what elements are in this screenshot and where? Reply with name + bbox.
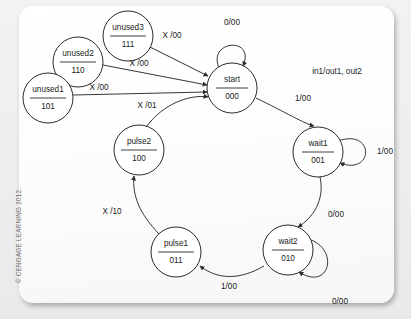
state-node-wait2[interactable]: wait2 010: [263, 225, 313, 275]
edge-label-start-self: 0/00: [224, 18, 240, 27]
state-label-name: unused2: [62, 49, 94, 58]
state-node-pulse1[interactable]: pulse1 011: [151, 227, 201, 277]
copyright-notice: © CENGAGE LEARNING 2012.: [15, 176, 22, 296]
state-diagram: unused3 111 unused2 110 unused1 101 star…: [0, 0, 411, 319]
state-label-name: start: [224, 75, 241, 84]
edge-label-wait2-pulse1: 1/00: [221, 282, 237, 291]
edge-wait2-pulse1: [200, 266, 264, 277]
state-node-wait1[interactable]: wait1 001: [293, 127, 343, 177]
edge-label-unused1-start: X /00: [89, 83, 109, 92]
state-label-name: unused3: [112, 23, 144, 32]
edge-label-pulse2-start: X /01: [137, 101, 157, 110]
state-node-unused1[interactable]: unused1 101: [23, 73, 73, 123]
edge-unused3-start: [150, 47, 208, 76]
state-label-code: 100: [132, 154, 146, 163]
state-label-name: unused1: [32, 85, 64, 94]
state-label-code: 110: [71, 66, 84, 75]
state-label-name: wait1: [307, 139, 328, 148]
state-label-name: pulse2: [127, 137, 152, 146]
state-node-unused3[interactable]: unused3 111: [103, 11, 153, 61]
edge-label-unused2-start: X /00: [129, 59, 149, 68]
state-label-code: 111: [122, 40, 135, 49]
edge-label-wait1-wait2: 0/00: [328, 210, 344, 219]
state-label-code: 001: [311, 156, 325, 165]
edge-label-pulse1-pulse2: X /10: [102, 207, 122, 216]
state-label-name: pulse1: [164, 239, 189, 248]
state-node-pulse2[interactable]: pulse2 100: [114, 125, 164, 175]
state-label-code: 000: [225, 92, 239, 101]
state-label-code: 101: [41, 102, 55, 111]
notation-legend: in1/out1, out2: [312, 67, 362, 76]
edge-unused1-start: [73, 92, 207, 95]
figure-root: unused3 111 unused2 110 unused1 101 star…: [0, 0, 411, 319]
state-label-name: wait2: [277, 237, 298, 246]
edge-label-wait1-self: 1/00: [377, 147, 393, 156]
edge-label-start-wait1: 1/00: [295, 94, 311, 103]
edge-label-unused3-start: X /00: [162, 31, 182, 40]
edge-label-wait2-self: 0/00: [332, 297, 348, 306]
edge-wait1-wait2: [298, 177, 321, 227]
state-label-code: 010: [281, 254, 295, 263]
state-label-code: 011: [169, 256, 182, 265]
state-node-start[interactable]: start 000: [207, 63, 257, 113]
edge-pulse1-pulse2: [134, 176, 159, 234]
